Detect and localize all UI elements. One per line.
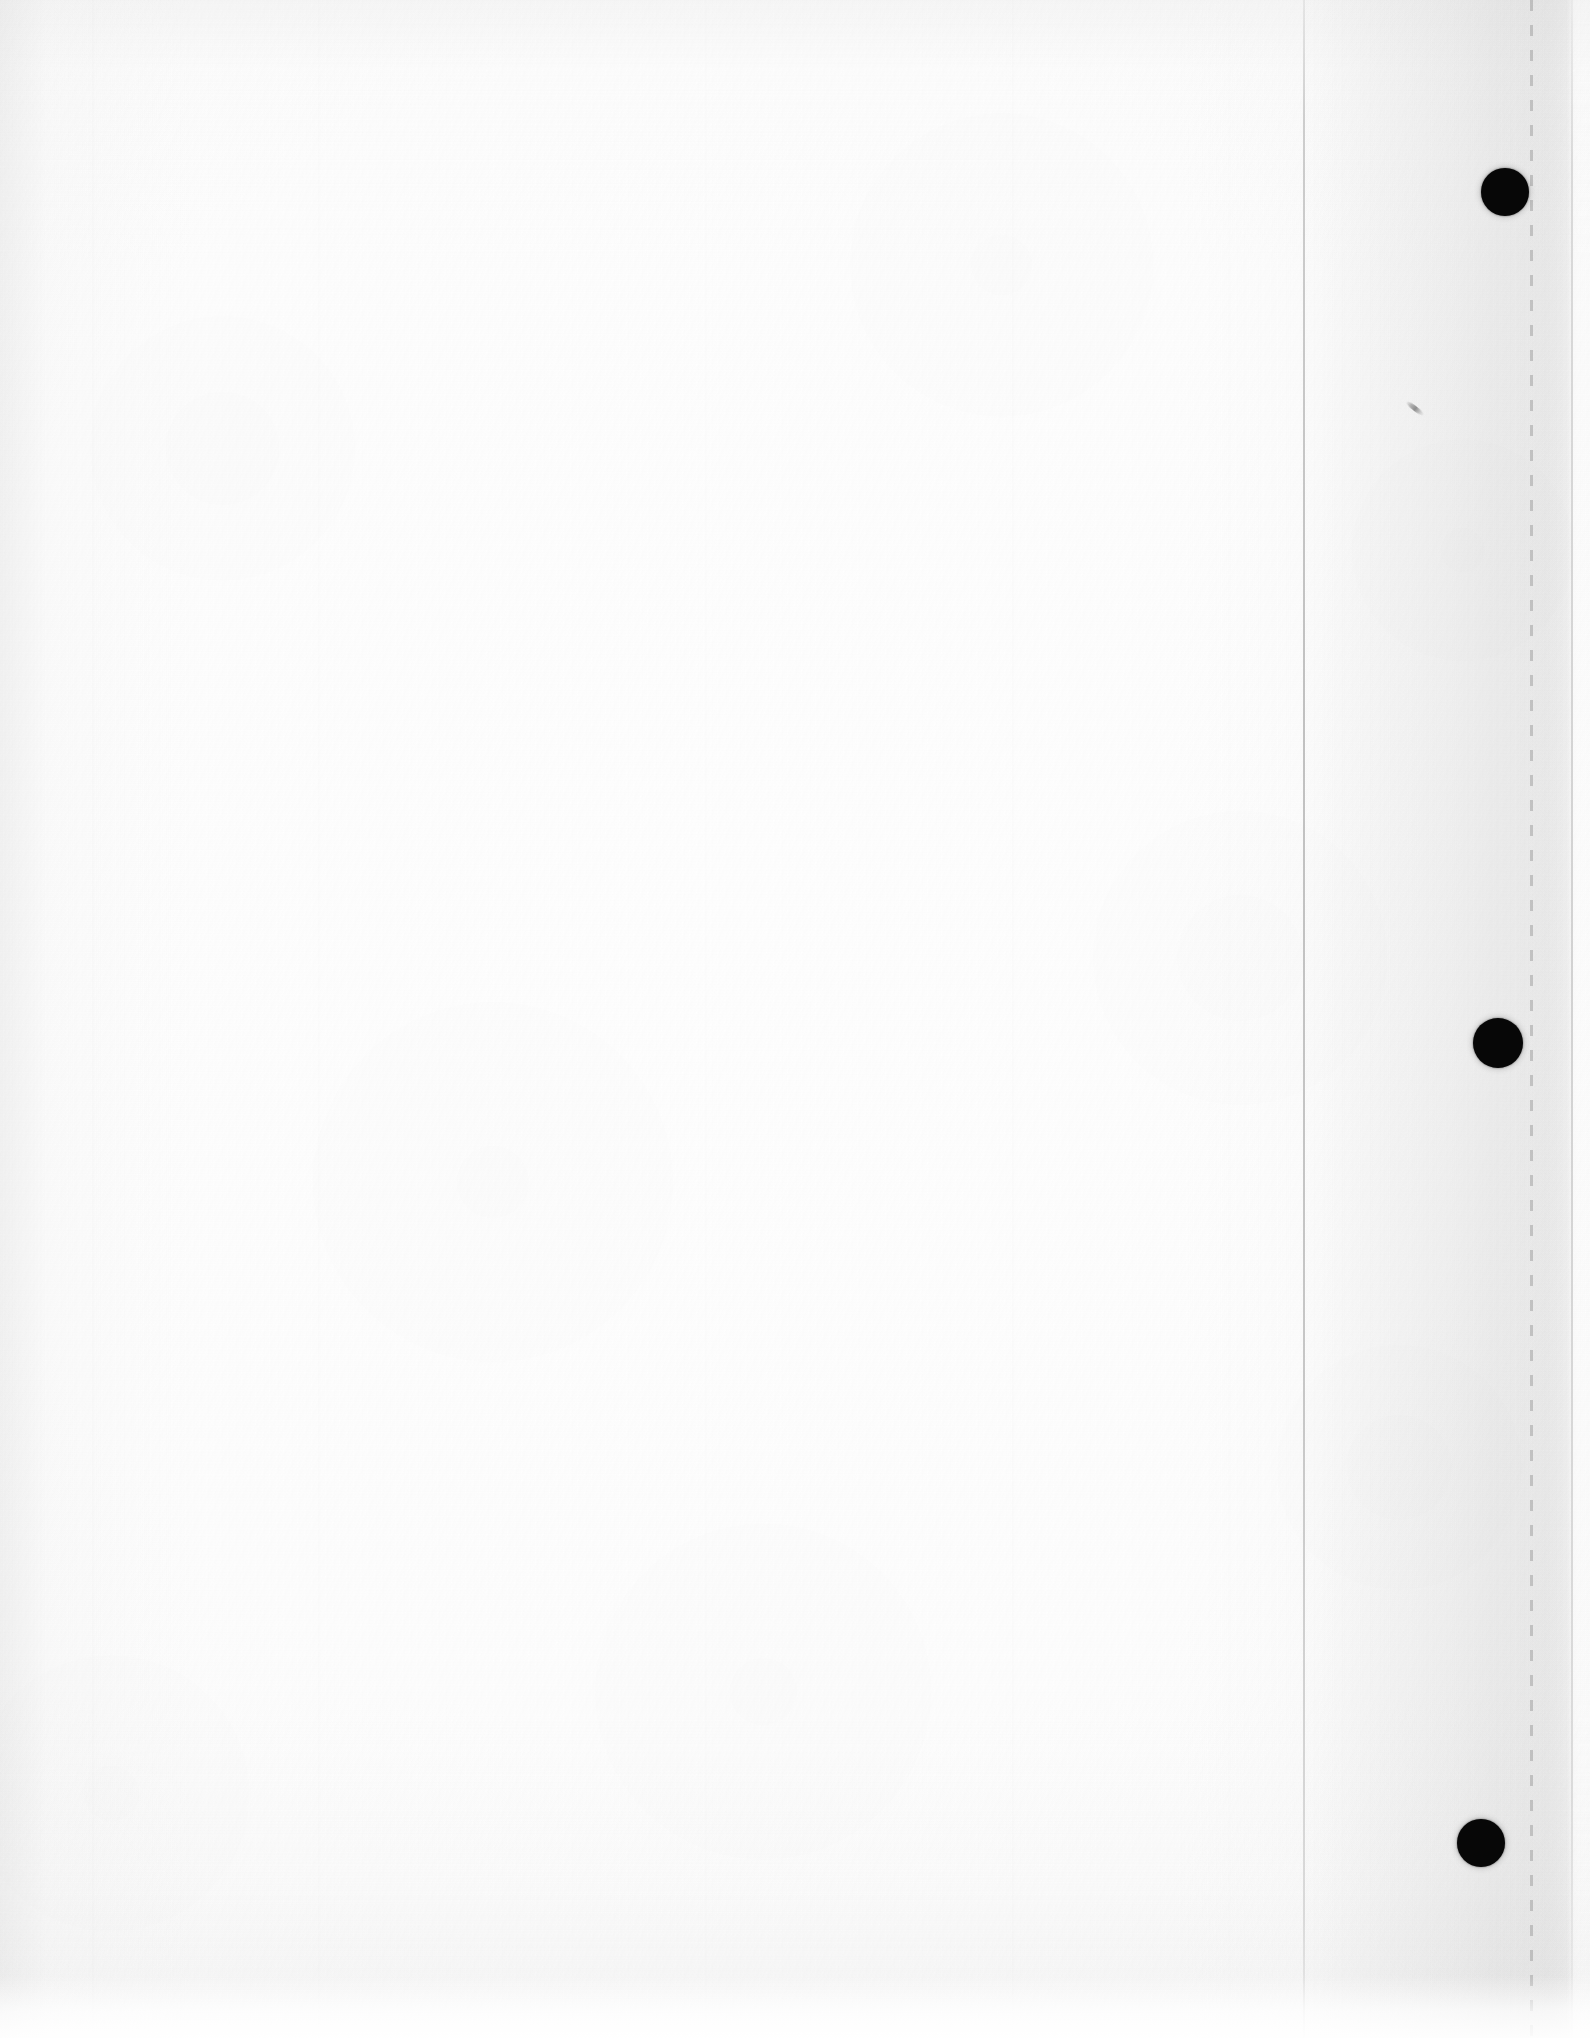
- hole-punch-bottom: [1457, 1819, 1505, 1867]
- hole-punch-middle: [1473, 1018, 1523, 1068]
- scanned-page: [0, 0, 1590, 2038]
- page-body-text: [120, 140, 1220, 1840]
- hole-punch-top: [1481, 168, 1529, 216]
